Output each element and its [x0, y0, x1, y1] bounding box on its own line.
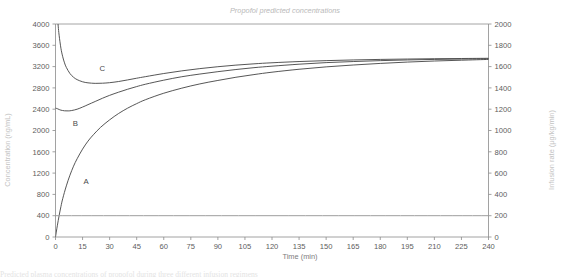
y-tick-label: 1600	[33, 148, 50, 157]
x-axis: 0153045607590105120135150165180195210225…	[53, 237, 494, 251]
y-axis-right-title: Infusion rate (µg/kg/min)	[547, 110, 556, 190]
y2-tick-label: 1600	[495, 62, 512, 71]
x-tick-label: 225	[455, 242, 468, 251]
x-tick-label: 150	[320, 242, 333, 251]
y2-tick-label: 2000	[495, 20, 512, 29]
x-tick-label: 60	[160, 242, 168, 251]
y-tick-label: 2000	[33, 126, 50, 135]
y-tick-label: 1200	[33, 169, 50, 178]
x-tick-label: 105	[239, 242, 252, 251]
propofol-concentration-chart: Propofol predicted concentrations 015304…	[0, 0, 563, 277]
x-tick-label: 30	[105, 242, 113, 251]
y-tick-label: 3600	[33, 41, 50, 50]
x-tick-label: 195	[401, 242, 414, 251]
y-tick-label: 3200	[33, 62, 50, 71]
curve-annotations: ABC	[73, 64, 106, 186]
y2-tick-label: 600	[495, 169, 508, 178]
x-axis-title: Time (min)	[282, 252, 317, 261]
y2-tick-label: 1200	[495, 105, 512, 114]
curve-label-a: A	[84, 177, 90, 186]
y-tick-label: 400	[37, 211, 50, 220]
x-tick-label: 180	[374, 242, 387, 251]
y-tick-label: 0	[45, 233, 49, 242]
y-tick-label: 2400	[33, 105, 50, 114]
x-tick-label: 90	[214, 242, 222, 251]
x-tick-label: 120	[266, 242, 279, 251]
y2-tick-label: 1000	[495, 126, 512, 135]
x-tick-label: 15	[78, 242, 86, 251]
x-tick-label: 75	[187, 242, 195, 251]
x-tick-label: 45	[132, 242, 140, 251]
x-tick-label: 165	[347, 242, 360, 251]
concentration-curve-b	[56, 59, 489, 111]
concentration-curve-a	[56, 59, 489, 237]
y2-tick-label: 800	[495, 148, 508, 157]
plot-frame	[56, 24, 489, 237]
x-tick-label: 0	[53, 242, 57, 251]
y2-tick-label: 0	[495, 233, 499, 242]
x-tick-label: 240	[482, 242, 495, 251]
curve-series-group	[56, 0, 489, 237]
y2-tick-label: 1800	[495, 41, 512, 50]
y-tick-label: 800	[37, 190, 50, 199]
y2-tick-label: 1400	[495, 84, 512, 93]
y-axis-title: Concentration (ng/mL)	[3, 113, 12, 187]
y-tick-label: 4000	[33, 20, 50, 29]
chart-title: Propofol predicted concentrations	[230, 6, 340, 15]
y2-tick-label: 400	[495, 190, 508, 199]
curve-label-c: C	[100, 64, 106, 73]
curve-label-b: B	[73, 119, 78, 128]
y-axis-right: 0200400600800100012001400160018002000	[489, 20, 512, 242]
x-tick-label: 135	[293, 242, 306, 251]
x-tick-label: 210	[428, 242, 441, 251]
figure-caption: Predicted plasma concentrations of propo…	[0, 269, 563, 277]
y-tick-label: 2800	[33, 84, 50, 93]
y-axis-left: 040080012001600200024002800320036004000	[33, 20, 56, 242]
y2-tick-label: 200	[495, 211, 508, 220]
